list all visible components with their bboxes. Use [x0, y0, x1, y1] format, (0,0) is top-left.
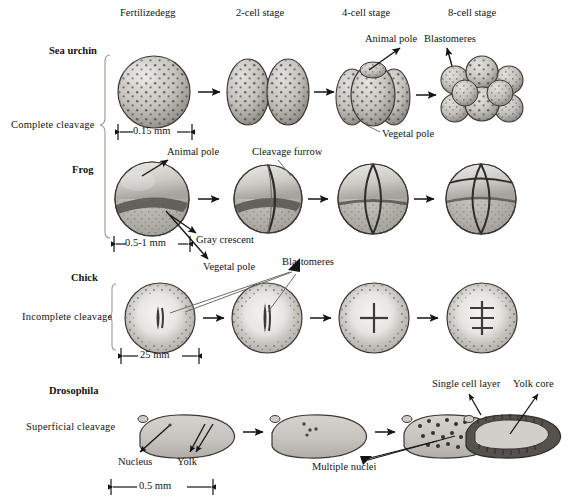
frog-8-cell	[446, 164, 516, 236]
cleavage-figure: Fertilizedegg 2-cell stage 4-cell stage …	[0, 0, 570, 503]
scale-label-frog: 0.5-1 mm	[125, 237, 166, 249]
frog-4-cell	[338, 164, 408, 236]
annotation-cleavage-furrow: Cleavage furrow	[252, 146, 322, 158]
frog-2-cell	[234, 165, 302, 235]
chick-disc-3	[339, 283, 409, 353]
sea-urchin-2-cell	[227, 59, 309, 125]
annotation-yolk-core: Yolk core	[513, 378, 554, 390]
drosophila-stage-2	[270, 415, 367, 458]
row-label-chick: Chick	[71, 272, 98, 284]
drosophila-stage-1	[138, 415, 235, 458]
annotation-multiple-nuclei: Multiple nuclei	[312, 461, 376, 473]
scale-label-chick: 25 mm	[140, 349, 169, 361]
chick-disc-4	[447, 283, 517, 353]
sea-urchin-8-cell	[441, 56, 523, 122]
annotation-nucleus: Nucleus	[118, 456, 152, 468]
brace-complete-cleavage	[100, 55, 110, 238]
column-header-8-cell: 8-cell stage	[448, 7, 496, 19]
leader-single-cell-layer	[469, 394, 481, 415]
column-header-2-cell: 2-cell stage	[236, 7, 284, 19]
annotation-animal-pole-urchin: Animal pole	[365, 33, 417, 45]
annotation-vegetal-pole-urchin: Vegetal pole	[382, 128, 434, 140]
sea-urchin-4-cell	[336, 62, 410, 126]
cleavage-type-incomplete: Incomplete cleavage	[22, 311, 112, 323]
annotation-yolk: Yolk	[177, 456, 197, 468]
annotation-animal-pole-frog: Animal pole	[167, 146, 219, 158]
annotation-single-cell-layer: Single cell layer	[432, 378, 500, 390]
chick-disc-2	[232, 283, 302, 353]
annotation-gray-crescent: Gray crescent	[196, 234, 254, 246]
row-label-frog: Frog	[72, 164, 93, 176]
leader-blastomeres-urchin	[447, 48, 452, 66]
sea-urchin-fertilized-egg	[118, 56, 190, 128]
frog-fertilized-egg	[115, 162, 189, 238]
scale-label-sea-urchin: 0.15 mm	[133, 125, 170, 137]
column-header-4-cell: 4-cell stage	[342, 7, 390, 19]
annotation-vegetal-pole-frog: Vegetal pole	[203, 261, 255, 273]
cleavage-type-superficial: Superficial cleavage	[26, 421, 115, 433]
cleavage-type-complete: Complete cleavage	[11, 119, 95, 131]
row-label-sea-urchin: Sea urchin	[49, 45, 97, 57]
chick-disc-1	[125, 283, 195, 353]
scale-label-drosophila: 0.5 mm	[139, 480, 171, 492]
annotation-blastomeres-chick: Blastomeres	[282, 256, 334, 268]
column-header-fertilized-egg: Fertilizedegg	[120, 7, 175, 19]
annotation-blastomeres-urchin: Blastomeres	[424, 33, 476, 45]
drosophila-stage-4	[464, 414, 561, 458]
row-label-drosophila: Drosophila	[49, 385, 98, 397]
